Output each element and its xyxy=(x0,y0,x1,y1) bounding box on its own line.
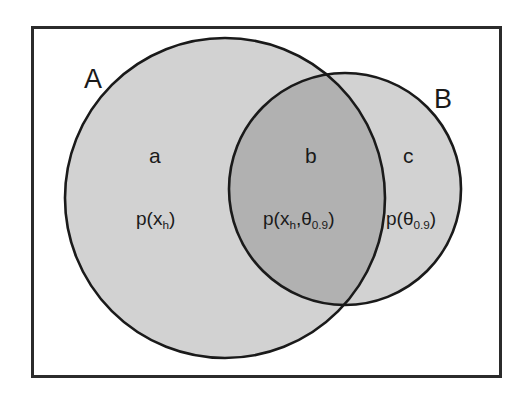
region-a-label: a xyxy=(149,145,161,166)
venn-diagram-canvas xyxy=(0,0,524,403)
formula-a-head: p(x xyxy=(136,208,162,229)
set-a-label: A xyxy=(84,66,102,93)
formula-c-tail: ) xyxy=(430,208,436,229)
region-c-formula: p(θ0.9) xyxy=(386,209,436,228)
region-a-formula: p(xh) xyxy=(136,209,175,228)
region-b-label: b xyxy=(305,145,317,166)
formula-b-tail: ) xyxy=(328,208,334,229)
venn-diagram-figure: A B a b c p(xh) p(xh,θ0.9) p(θ0.9) xyxy=(0,0,524,403)
formula-b-subscript-1: h xyxy=(289,218,296,231)
formula-a-tail: ) xyxy=(169,208,175,229)
set-b-label: B xyxy=(434,86,452,113)
region-b-formula: p(xh,θ0.9) xyxy=(263,209,335,228)
formula-c-head: p(θ xyxy=(386,208,413,229)
formula-b-head: p(x xyxy=(263,208,289,229)
formula-b-subscript-2: 0.9 xyxy=(312,218,328,231)
formula-a-subscript: h xyxy=(162,218,169,231)
formula-c-subscript: 0.9 xyxy=(413,218,429,231)
formula-b-middle: ,θ xyxy=(296,208,312,229)
region-c-label: c xyxy=(403,145,414,166)
